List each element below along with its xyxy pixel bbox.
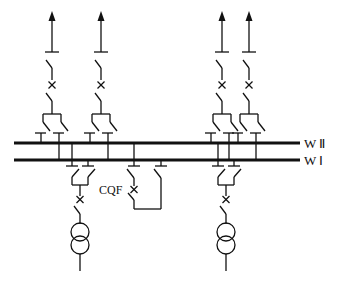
transformer-bay-1 [66, 143, 95, 271]
bus-I-label: W Ⅰ [304, 153, 323, 168]
bus-coupler [127, 143, 167, 209]
outgoing-feeder-3 [205, 11, 238, 160]
outgoing-feeder-2 [84, 11, 117, 160]
outgoing-feeder-4 [232, 11, 265, 160]
bus-coupler-label: CQF [99, 183, 123, 197]
outgoing-feeder-1 [35, 11, 68, 160]
bus-II-label: W Ⅱ [304, 136, 325, 151]
single-line-diagram: W Ⅱ W Ⅰ CQF [0, 0, 337, 286]
transformer-bay-2 [212, 143, 241, 271]
